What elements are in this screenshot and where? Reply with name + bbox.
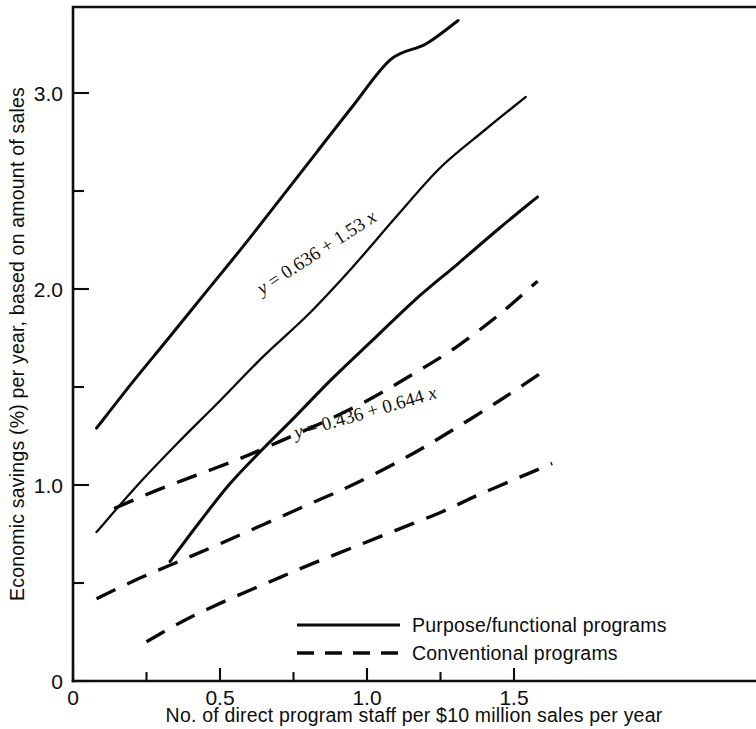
y-tick-label: 1.0 [34, 474, 63, 497]
y-axis-tick-labels: 01.02.03.0 [34, 82, 63, 693]
y-axis-title: Economic savings (%) per year, based on … [6, 87, 28, 601]
y-axis-ticks [73, 93, 89, 681]
series-curve-purpose-functional-fit [97, 97, 526, 532]
x-tick-label: 0 [67, 686, 79, 709]
series-curve-conventional-upper [114, 281, 537, 508]
axis-frame [73, 7, 756, 681]
annotation-equation-conventional-fit: y = 0.436 + 0.644 x [289, 382, 439, 444]
series-curve-conventional-fit [97, 371, 544, 598]
plot-axes [73, 7, 756, 681]
figure-container: 00.51.01.5 01.02.03.0 y = 0.636 + 1.53 x… [0, 0, 756, 729]
legend-label-purpose-functional: Purpose/functional programs [412, 614, 667, 636]
y-tick-label: 3.0 [34, 82, 63, 105]
series-curve-purpose-functional-upper [97, 20, 459, 428]
annotation-body: = 0.636 + 1.53 [260, 210, 373, 294]
annotation-equation-purpose-functional-fit: y = 0.636 + 1.53 x [251, 205, 380, 299]
series-curve-purpose-functional-lower [170, 197, 538, 562]
y-tick-label: 0 [51, 670, 63, 693]
x-axis-ticks [73, 668, 514, 681]
legend: Purpose/functional programs Conventional… [297, 614, 667, 664]
x-axis-title: No. of direct program staff per $10 mill… [166, 704, 663, 726]
legend-label-conventional: Conventional programs [412, 642, 618, 664]
y-tick-label: 2.0 [34, 278, 63, 301]
equation-annotations: y = 0.636 + 1.53 xy = 0.436 + 0.644 x [251, 205, 439, 443]
chart-canvas: 00.51.01.5 01.02.03.0 y = 0.636 + 1.53 x… [0, 0, 756, 729]
data-series-group [97, 20, 553, 641]
